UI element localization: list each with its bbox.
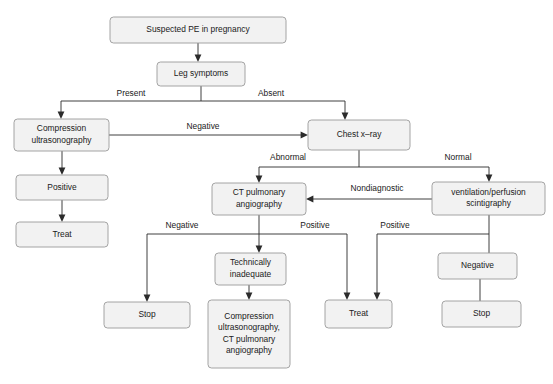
arrowhead-chest-xray-left: [301, 132, 308, 139]
node-label-technically_inadeq: inadequate: [230, 269, 272, 279]
node-stop_vq: Stop: [442, 301, 521, 327]
node-stop_ct: Stop: [104, 302, 190, 328]
node-chest_xray: Chest x–ray: [308, 120, 410, 150]
node-label-compression_us: Compression: [37, 123, 87, 133]
node-leg_symptoms: Leg symptoms: [157, 62, 245, 86]
edge-label-present: Present: [117, 88, 147, 98]
node-label-vq_scintigraphy: ventilation/perfusion: [451, 187, 526, 197]
node-label-stop_ct: Stop: [138, 309, 156, 319]
edge-label-absent: Absent: [258, 88, 285, 98]
arrowhead-compression-us: [58, 112, 65, 119]
arrowhead-treat-us: [59, 215, 66, 222]
node-label-treat_ct: Treat: [349, 308, 369, 318]
node-treat_ct: Treat: [325, 300, 392, 328]
edge-label-negative_ct: Negative: [165, 220, 198, 230]
node-compression_us: Compressionultrasonography: [14, 119, 109, 151]
node-label-repeat_imaging: angiography: [226, 345, 273, 355]
node-label-negative_vq: Negative: [461, 260, 494, 270]
node-label-suspected_pe: Suspected PE in pregnancy: [146, 24, 250, 34]
flowchart-canvas: Suspected PE in pregnancyLeg symptomsCom…: [0, 0, 553, 384]
node-positive_us: Positive: [16, 175, 108, 200]
node-label-treat_us: Treat: [52, 229, 72, 239]
node-repeat_imaging: Compressionultrasonography,CT pulmonarya…: [208, 300, 290, 368]
node-vq_scintigraphy: ventilation/perfusionscintigraphy: [432, 182, 545, 215]
node-negative_vq: Negative: [438, 253, 517, 279]
node-label-ct_pulm_ang: CT pulmonary: [233, 187, 286, 197]
arrowhead-technically-inadequate: [256, 246, 263, 253]
edge-leg-split-bus: [61, 86, 345, 114]
node-label-ct_pulm_ang: angiography: [236, 199, 283, 209]
arrowhead-positive-us: [59, 168, 66, 175]
edge-label-positive_ct: Positive: [300, 220, 330, 230]
arrowhead-ct-pulm-top: [256, 176, 263, 183]
edge-label-abnormal: Abnormal: [270, 152, 306, 162]
node-label-repeat_imaging: Compression: [224, 311, 274, 321]
node-ct_pulm_ang: CT pulmonaryangiography: [212, 183, 306, 215]
arrowhead-leg-symptoms: [195, 55, 202, 62]
arrowhead-treat-ct-right: [374, 293, 381, 300]
node-label-positive_us: Positive: [47, 182, 77, 192]
node-label-repeat_imaging: ultrasonography,: [218, 322, 280, 332]
node-label-chest_xray: Chest x–ray: [337, 129, 382, 139]
node-treat_us: Treat: [16, 222, 108, 247]
edge-label-positive_vq: Positive: [380, 220, 410, 230]
node-suspected_pe: Suspected PE in pregnancy: [110, 17, 286, 43]
arrowhead-treat-ct-left: [344, 293, 351, 300]
node-label-repeat_imaging: CT pulmonary: [223, 334, 276, 344]
arrowhead-stop-ct: [144, 295, 151, 302]
nodes-layer: Suspected PE in pregnancyLeg symptomsCom…: [14, 17, 545, 368]
arrowhead-ct-pulm-right: [306, 196, 313, 203]
edge-label-negative_us: Negative: [186, 121, 219, 131]
arrowhead-vq-top: [486, 175, 493, 182]
node-label-compression_us: ultrasonography: [31, 135, 92, 145]
arrowhead-chest-xray-top: [342, 113, 349, 120]
node-label-technically_inadeq: Technically: [230, 257, 272, 267]
flowchart-diagram: Suspected PE in pregnancyLeg symptomsCom…: [0, 0, 553, 384]
node-technically_inadeq: Technicallyinadequate: [215, 253, 286, 285]
node-label-stop_vq: Stop: [473, 308, 491, 318]
node-label-vq_scintigraphy: scintigraphy: [466, 198, 512, 208]
edge-label-nondiagnostic: Nondiagnostic: [350, 183, 403, 193]
node-label-leg_symptoms: Leg symptoms: [174, 68, 228, 78]
arrowhead-repeat-imaging: [246, 293, 253, 300]
edge-label-normal: Normal: [445, 152, 472, 162]
